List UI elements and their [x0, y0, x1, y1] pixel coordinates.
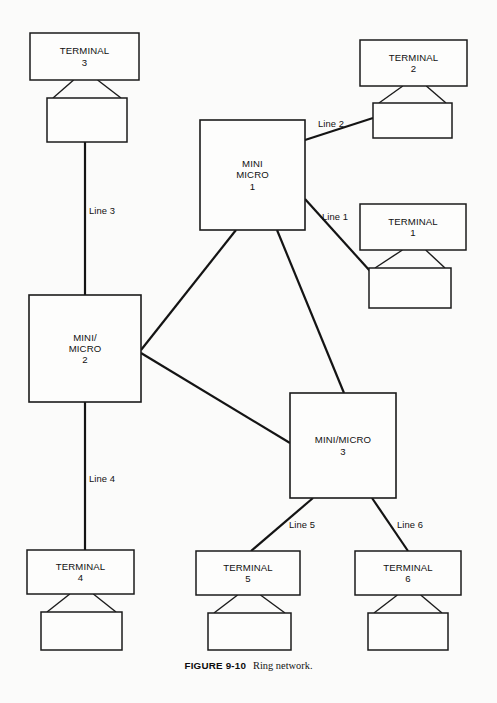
- terminal-leg-left: [375, 250, 402, 268]
- terminal-base-box: [368, 613, 448, 650]
- link-label-line-5: Line 5: [289, 519, 315, 530]
- link-trunk-mm1-mm3: [277, 230, 344, 393]
- figure-container: MINIMICRO1MINI/MICRO2MINI/MICRO3 TERMINA…: [0, 0, 497, 703]
- terminal-base-box: [369, 268, 451, 308]
- terminal-base-box: [41, 612, 122, 650]
- terminal-terminal-6: TERMINAL6: [355, 551, 461, 650]
- figure-caption: FIGURE 9-10Ring network.: [0, 655, 497, 673]
- node-mini-micro-2: MINI/MICRO2: [29, 295, 141, 402]
- terminal-leg-left: [214, 595, 238, 613]
- terminal-leg-left: [53, 80, 74, 98]
- terminal-terminal-5: TERMINAL5: [196, 551, 300, 650]
- link-label-line-6: Line 6: [397, 519, 423, 530]
- link-trunk-mm1-mm2: [141, 230, 236, 350]
- link-label-line-1: Line 1: [322, 211, 348, 222]
- link-label-line-3: Line 3: [89, 205, 115, 216]
- terminal-leg-left: [374, 595, 397, 613]
- terminal-terminal-2: TERMINAL2: [360, 40, 467, 138]
- terminal-base-box: [373, 103, 452, 138]
- terminal-leg-right: [421, 595, 442, 613]
- figure-caption-text: Ring network.: [253, 660, 312, 671]
- figure-caption-id: FIGURE 9-10: [185, 660, 247, 671]
- terminal-leg-right: [260, 595, 285, 613]
- link-label-line-2: Line 2: [318, 118, 344, 129]
- terminal-leg-left: [379, 86, 403, 103]
- network-diagram: MINIMICRO1MINI/MICRO2MINI/MICRO3 TERMINA…: [0, 0, 497, 703]
- terminal-terminal-3: TERMINAL3: [30, 33, 139, 142]
- terminal-leg-right: [93, 594, 116, 612]
- link-label-line-4: Line 4: [89, 473, 115, 484]
- terminal-terminal-4: TERMINAL4: [27, 550, 134, 650]
- terminal-leg-left: [47, 594, 70, 612]
- terminal-terminal-1: TERMINAL1: [360, 204, 466, 308]
- terminal-base-box: [208, 613, 291, 650]
- node-mini-micro-1: MINIMICRO1: [200, 120, 305, 230]
- link-trunk-mm2-mm3: [141, 353, 290, 443]
- node-mini-micro-3: MINI/MICRO3: [290, 393, 396, 498]
- terminal-leg-right: [98, 80, 121, 98]
- terminal-leg-right: [426, 86, 446, 103]
- terminal-base-box: [47, 98, 127, 142]
- terminal-leg-right: [426, 250, 445, 268]
